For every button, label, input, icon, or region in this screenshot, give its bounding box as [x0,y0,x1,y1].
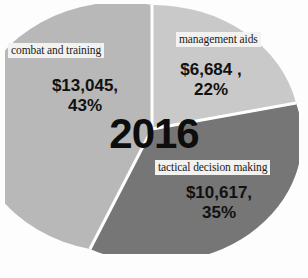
slice-value-combat-amount: $13,045, [52,76,118,95]
slice-label-management-aids: management aids [176,32,261,47]
slice-label-combat-and-training: combat and training [8,43,104,58]
slice-value-management-aids: $6,684 , 22% [157,60,265,100]
slice-value-management-amount: $6,684 , [180,60,241,79]
pie-chart-figure: combat and training management aids tact… [0,0,308,278]
slice-value-tactical-amount: $10,617, [186,183,252,202]
slice-value-tactical-percent: 35% [160,203,278,223]
slice-value-tactical-decision-making: $10,617, 35% [160,183,278,223]
slice-value-management-percent: 22% [157,80,265,100]
slice-label-tactical-decision-making: tactical decision making [155,160,270,175]
chart-center-year: 2016 [84,112,224,156]
